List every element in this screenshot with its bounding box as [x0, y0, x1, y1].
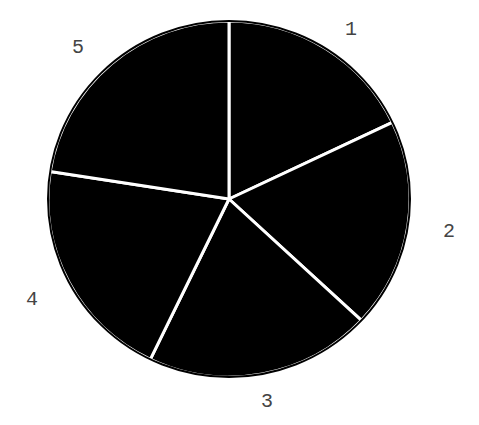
pie-chart: 1 2 3 4 5	[0, 0, 479, 425]
slice-label-3: 3	[261, 390, 273, 413]
slice-label-5: 5	[72, 36, 84, 59]
slice-label-1: 1	[345, 18, 357, 41]
pie-slices	[48, 21, 410, 377]
slice-label-4: 4	[26, 288, 38, 311]
slice-label-2: 2	[443, 220, 455, 243]
